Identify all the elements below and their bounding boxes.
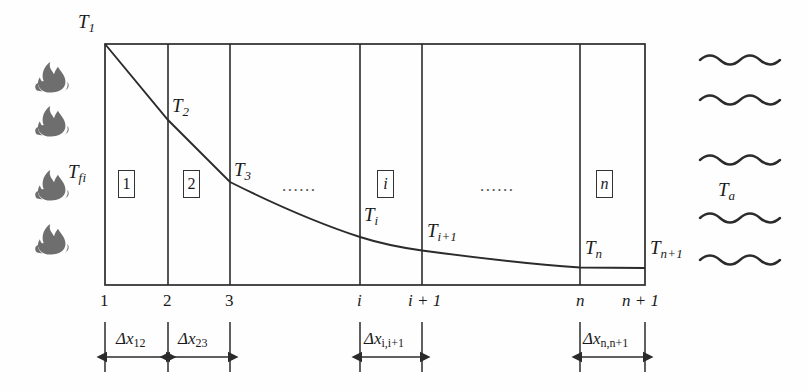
wall-outline [105, 44, 645, 285]
node-number-3: 3 [225, 292, 234, 309]
layer-box-n: n [596, 170, 613, 198]
layer-interface-lines [168, 44, 580, 285]
dimension-label-dx-i-i1: Δxi,i+1 [364, 330, 404, 349]
layer-box-1: 1 [118, 170, 135, 198]
layer-ellipsis-right: ...... [480, 176, 515, 196]
layer-box-2: 2 [183, 170, 200, 198]
temperature-label-Tn: Tn [585, 238, 602, 260]
layer-box-i: i [377, 170, 394, 198]
node-number-n: n [576, 292, 585, 309]
dimension-label-dx-n-n1: Δxn,n+1 [583, 330, 628, 349]
dimension-label-dx23: Δx23 [178, 330, 208, 349]
node-number-i-plus-1: i + 1 [408, 292, 441, 309]
layer-ellipsis-left: ...... [282, 176, 317, 196]
node-number-2: 2 [163, 292, 172, 309]
temperature-label-Tn-plus-1: Tn+1 [650, 238, 683, 260]
temperature-label-Ti: Ti [364, 205, 378, 227]
temperature-profile-curve [105, 44, 645, 268]
ambient-temperature-label: Ta [718, 180, 735, 202]
flame-icon-group [35, 62, 68, 254]
fire-temperature-label: Tfi [68, 162, 86, 184]
temperature-label-T1: T1 [78, 12, 95, 34]
figure-canvas: T1 T2 T3 Ti Ti+1 Tn Tn+1 Tfi Ta 1 2 i n … [0, 0, 808, 392]
temperature-label-T2: T2 [172, 96, 189, 118]
temperature-label-Ti-plus-1: Ti+1 [427, 221, 457, 243]
wave-icon-group [700, 56, 780, 265]
node-number-n-plus-1: n + 1 [622, 292, 659, 309]
temperature-label-T3: T3 [234, 160, 251, 182]
dimension-label-dx12: Δx12 [116, 330, 146, 349]
node-number-i: i [357, 292, 362, 309]
node-number-1: 1 [100, 292, 109, 309]
